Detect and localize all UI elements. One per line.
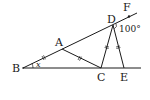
angle-arc-B [32, 64, 33, 68]
label-B: B [12, 62, 20, 75]
segment-AC [62, 49, 101, 68]
label-A: A [54, 36, 64, 49]
point-F-dot [128, 15, 130, 17]
label-C: C [97, 71, 105, 84]
label-D: D [107, 13, 116, 26]
label-E: E [120, 71, 128, 84]
angle-label-100: 100° [119, 24, 141, 34]
angle-label-x: x [36, 60, 41, 69]
point-B-dot [22, 67, 24, 69]
geometry-diagram: B A D F C E x 100° [0, 0, 150, 100]
label-F: F [123, 1, 131, 14]
